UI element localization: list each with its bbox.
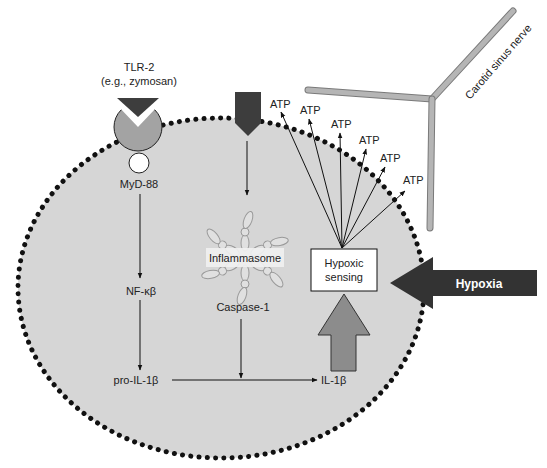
myd88-label: MyD-88 xyxy=(120,178,159,190)
inflammasome-label: Inflammasome xyxy=(209,252,281,264)
atp-label-1: ATP xyxy=(270,98,291,110)
hypoxic-sensing-box xyxy=(311,249,377,291)
pro-il1b-label: pro-IL-1β xyxy=(114,374,159,386)
atp-label-5: ATP xyxy=(380,152,401,164)
il1b-label: IL-1β xyxy=(321,374,346,386)
hypoxia-inflammation-diagram: Carotid sinus nerve TLR-2 (e.g., zymosan… xyxy=(0,0,547,468)
atp-label-3: ATP xyxy=(331,118,352,130)
sensing-label: sensing xyxy=(325,271,363,283)
atp-label-4: ATP xyxy=(359,134,380,146)
tlr2-label: TLR-2 xyxy=(124,61,155,73)
zymosan-label: (e.g., zymosan) xyxy=(101,75,177,87)
hypoxia-label: Hypoxia xyxy=(456,277,503,291)
atp-label-6: ATP xyxy=(403,174,424,186)
hypoxic-label: Hypoxic xyxy=(324,257,364,269)
atp-label-2: ATP xyxy=(300,104,321,116)
nfkb-label: NF-κβ xyxy=(126,285,156,297)
nerve-label: Carotid sinus nerve xyxy=(462,22,533,101)
caspase1-label: Caspase-1 xyxy=(216,301,269,313)
myd88-icon xyxy=(129,153,149,173)
